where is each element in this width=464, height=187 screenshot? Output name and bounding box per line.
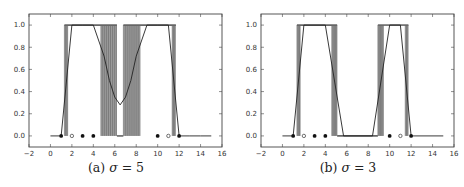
svg-text:16: 16 bbox=[450, 150, 459, 158]
svg-text:16: 16 bbox=[218, 150, 227, 158]
svg-text:0.6: 0.6 bbox=[14, 66, 26, 74]
caption-a-suffix: = 5 bbox=[118, 160, 144, 175]
svg-text:0.8: 0.8 bbox=[14, 44, 25, 52]
svg-text:10: 10 bbox=[153, 150, 162, 158]
svg-text:0.8: 0.8 bbox=[246, 44, 257, 52]
svg-text:0.2: 0.2 bbox=[246, 110, 257, 118]
svg-text:0.4: 0.4 bbox=[14, 88, 26, 96]
caption-b-suffix: = 3 bbox=[350, 160, 376, 175]
y-axis-ticks: 0.00.20.40.60.81.0 bbox=[14, 21, 222, 140]
sample-bands bbox=[297, 25, 409, 136]
svg-text:4: 4 bbox=[323, 150, 328, 158]
svg-text:0: 0 bbox=[48, 150, 52, 158]
svg-text:14: 14 bbox=[428, 150, 437, 158]
svg-text:10: 10 bbox=[385, 150, 394, 158]
svg-text:8: 8 bbox=[366, 150, 370, 158]
caption-a-prefix: (a) bbox=[88, 160, 109, 175]
svg-text:0.0: 0.0 bbox=[14, 132, 25, 140]
svg-text:0.6: 0.6 bbox=[246, 66, 258, 74]
svg-text:0.0: 0.0 bbox=[246, 132, 257, 140]
svg-text:−2: −2 bbox=[24, 150, 34, 158]
svg-text:1.0: 1.0 bbox=[246, 21, 257, 29]
chart-b-plot: −202468101214160.00.20.40.60.81.0 bbox=[232, 0, 464, 160]
svg-text:−2: −2 bbox=[256, 150, 266, 158]
svg-text:14: 14 bbox=[196, 150, 205, 158]
smooth-curve bbox=[282, 25, 443, 136]
caption-a: (a) σ = 5 bbox=[0, 160, 232, 175]
caption-b-sigma: σ bbox=[341, 160, 350, 175]
svg-text:2: 2 bbox=[302, 150, 306, 158]
svg-text:8: 8 bbox=[134, 150, 138, 158]
caption-b-prefix: (b) bbox=[320, 160, 342, 175]
caption-b: (b) σ = 3 bbox=[232, 160, 464, 175]
sample-bands bbox=[64, 25, 176, 136]
svg-text:12: 12 bbox=[407, 150, 416, 158]
y-axis-ticks: 0.00.20.40.60.81.0 bbox=[246, 21, 454, 140]
panel-a: −202468101214160.00.20.40.60.81.0 (a) σ … bbox=[0, 0, 232, 187]
svg-text:0.2: 0.2 bbox=[14, 110, 25, 118]
svg-text:0: 0 bbox=[280, 150, 284, 158]
axes-frame bbox=[261, 14, 454, 147]
svg-text:6: 6 bbox=[345, 150, 350, 158]
svg-text:2: 2 bbox=[70, 150, 74, 158]
svg-text:4: 4 bbox=[91, 150, 96, 158]
caption-a-sigma: σ bbox=[109, 160, 118, 175]
svg-text:1.0: 1.0 bbox=[14, 21, 25, 29]
chart-a-plot: −202468101214160.00.20.40.60.81.0 bbox=[0, 0, 232, 160]
svg-text:0.4: 0.4 bbox=[246, 88, 258, 96]
panel-b: −202468101214160.00.20.40.60.81.0 (b) σ … bbox=[232, 0, 464, 187]
svg-text:6: 6 bbox=[113, 150, 118, 158]
svg-text:12: 12 bbox=[175, 150, 184, 158]
